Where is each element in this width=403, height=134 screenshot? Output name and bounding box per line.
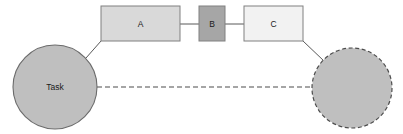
node-task-circle[interactable]: Task: [13, 45, 97, 129]
node-dashed-circle[interactable]: [312, 48, 392, 128]
task-circle-shape[interactable]: [13, 45, 97, 129]
box-c-shape[interactable]: [244, 6, 303, 41]
box-a-shape[interactable]: [101, 6, 180, 41]
node-box-c[interactable]: C: [244, 6, 303, 41]
node-box-b[interactable]: B: [199, 6, 225, 41]
connector-box-c-to-dashed-circle: [303, 41, 324, 61]
diagram-canvas: Task A B C: [0, 0, 403, 134]
dashed-circle-shape[interactable]: [312, 48, 392, 128]
connector-task-to-box-a: [86, 41, 101, 58]
diagram-svg: Task A B C: [0, 0, 403, 134]
node-box-a[interactable]: A: [101, 6, 180, 41]
box-b-shape[interactable]: [199, 6, 225, 41]
